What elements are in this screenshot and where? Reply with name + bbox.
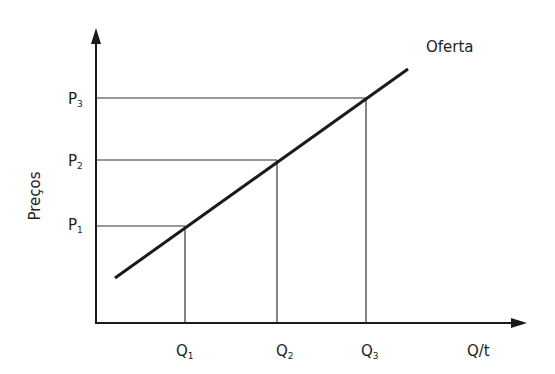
price-label-p3: P3 <box>68 90 83 109</box>
curve-label: Oferta <box>426 38 474 56</box>
price-label-p1: P1 <box>68 216 83 235</box>
y-axis-label: Preços <box>26 171 44 220</box>
quantity-label-q2: Q2 <box>276 342 294 361</box>
x-axis-label: Q/t <box>467 342 490 360</box>
y-axis-arrow-icon <box>91 28 101 44</box>
price-label-p2: P2 <box>68 152 83 171</box>
supply-curve <box>115 69 408 278</box>
quantity-label-q1: Q1 <box>176 342 194 361</box>
quantity-label-q3: Q3 <box>361 342 379 361</box>
guide-lines <box>96 98 366 323</box>
x-axis-arrow-icon <box>511 318 527 328</box>
supply-diagram: Oferta Preços P3 P2 P1 Q1 Q2 Q3 Q/t <box>0 0 555 374</box>
